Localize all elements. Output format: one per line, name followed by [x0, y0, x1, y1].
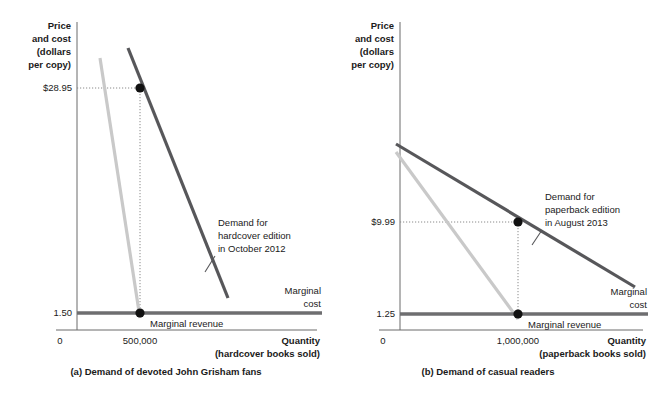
- panel-a-caption: (a) Demand of devoted John Grisham fans: [70, 366, 261, 377]
- panel-a-x-axis-title: Quantity: [281, 335, 320, 346]
- panel-a-demand-annotation-line-2: hardcover edition: [218, 230, 291, 241]
- panel-b-marginal-revenue-line: [396, 152, 518, 319]
- panel-a-x-tick-quantity: 500,000: [123, 335, 157, 346]
- panel-b-y-axis-title-line-3: (dollars: [360, 46, 394, 57]
- two-panel-demand-figure: Price and cost (dollars per copy) $28.95…: [0, 0, 652, 399]
- panel-b-profit-max-point: [513, 217, 522, 226]
- panel-b-demand-annotation-line-2: paperback edition: [545, 204, 620, 215]
- panel-a-x-origin-label: 0: [57, 335, 62, 346]
- panel-a-marginal-cost-label-line-2: cost: [304, 298, 322, 309]
- panel-b-paperback: Price and cost (dollars per copy) $9.99 …: [326, 0, 652, 399]
- panel-a-demand-annotation-line-3: in October 2012: [218, 243, 286, 254]
- panel-a-marginal-cost-label-line-1: Marginal: [285, 285, 321, 296]
- panel-b-x-axis-title: Quantity: [607, 335, 646, 346]
- panel-a-chart: Price and cost (dollars per copy) $28.95…: [0, 0, 326, 399]
- panel-b-marginal-cost-label-line-2: cost: [630, 299, 648, 310]
- panel-a-profit-max-point: [135, 83, 144, 92]
- panel-b-x-axis-subtitle: (paperback books sold): [539, 348, 646, 359]
- panel-b-y-tick-price: $9.99: [371, 216, 395, 227]
- panel-b-demand-annotation-leader: [532, 230, 542, 245]
- panel-a-y-tick-marginal-cost: 1.50: [54, 307, 73, 318]
- panel-b-x-tick-quantity: 1,000,000: [497, 335, 539, 346]
- panel-b-y-axis-title-line-1: Price: [371, 20, 394, 31]
- panel-a-y-axis-title-line-4: per copy): [28, 59, 71, 70]
- panel-a-y-axis-title-line-2: and cost: [32, 33, 72, 44]
- panel-b-mr-equals-mc-point: [513, 309, 522, 318]
- panel-b-demand-annotation-line-1: Demand for: [545, 191, 595, 202]
- panel-a-y-axis-title-line-3: (dollars: [37, 46, 71, 57]
- panel-a-demand-annotation-line-1: Demand for: [218, 217, 268, 228]
- panel-a-y-axis-title-line-1: Price: [48, 20, 71, 31]
- panel-b-demand-line: [396, 144, 635, 287]
- panel-a-x-axis-subtitle: (hardcover books sold): [215, 348, 320, 359]
- panel-b-marginal-cost-label-line-1: Marginal: [611, 286, 647, 297]
- panel-b-caption: (b) Demand of casual readers: [421, 366, 554, 377]
- panel-b-demand-annotation-line-3: in August 2013: [545, 217, 608, 228]
- panel-a-hardcover: Price and cost (dollars per copy) $28.95…: [0, 0, 326, 399]
- panel-b-marginal-revenue-label: Marginal revenue: [528, 319, 601, 330]
- panel-a-mr-equals-mc-point: [135, 308, 144, 317]
- panel-b-chart: Price and cost (dollars per copy) $9.99 …: [326, 0, 652, 399]
- panel-b-y-axis-title-line-4: per copy): [351, 59, 394, 70]
- panel-a-marginal-revenue-line: [100, 58, 140, 318]
- panel-b-x-origin-label: 0: [380, 335, 385, 346]
- panel-a-y-tick-price: $28.95: [43, 82, 72, 93]
- panel-a-marginal-revenue-label: Marginal revenue: [150, 318, 223, 329]
- panel-b-y-axis-title-line-2: and cost: [355, 33, 395, 44]
- panel-b-y-tick-marginal-cost: 1.25: [377, 308, 396, 319]
